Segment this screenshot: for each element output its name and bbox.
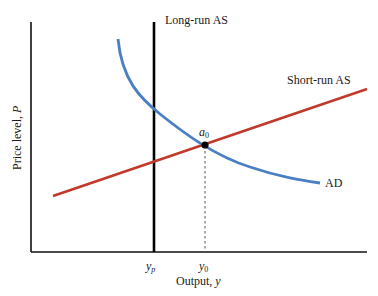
short-run-as-label: Short-run AS — [287, 73, 351, 87]
y-axis-title: Price level, P — [10, 105, 24, 170]
short-run-as-line — [53, 89, 367, 196]
chart-canvas: Long-run AS Short-run AS AD a0 yp y0 Out… — [0, 0, 378, 296]
yp-tick-label: yp — [145, 259, 155, 274]
y0-tick-label: y0 — [198, 259, 208, 274]
ad-label: AD — [325, 176, 343, 190]
a0-label: a0 — [199, 125, 209, 140]
ad-curve — [118, 39, 320, 183]
long-run-as-label: Long-run AS — [165, 13, 228, 27]
x-axis-title: Output, y — [176, 274, 221, 288]
equilibrium-point — [201, 141, 208, 148]
